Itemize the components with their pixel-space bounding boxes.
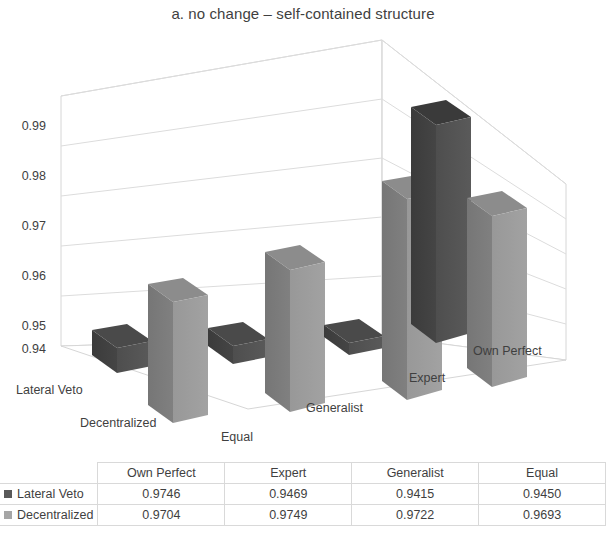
series-axis-label-lateral-veto: Lateral Veto [16,383,83,397]
bar-lateral-veto-own-perfect [411,100,471,343]
chart-title: a. no change – self-contained structure [0,5,606,22]
table-row: Lateral Veto 0.9746 0.9469 0.9415 0.9450 [0,484,606,505]
cell-lateral-veto-expert: 0.9469 [225,484,352,505]
category-label-equal: Equal [221,430,253,444]
table-corner-cell [0,463,98,484]
cell-decentralized-expert: 0.9749 [225,505,352,526]
table-col-header-generalist: Generalist [352,463,479,484]
cell-decentralized-equal: 0.9693 [479,505,606,526]
series-axis-label-decentralized: Decentralized [80,416,156,430]
table-row: Decentralized 0.9704 0.9749 0.9722 0.969… [0,505,606,526]
data-table: Own Perfect Expert Generalist Equal Late… [0,462,606,526]
y-tick-2: 0.97 [6,219,46,233]
y-tick-3: 0.96 [6,269,46,283]
category-label-expert: Expert [409,371,445,385]
category-label-own-perfect: Own Perfect [473,344,542,358]
legend-item-decentralized: Decentralized [0,505,98,526]
legend-label-decentralized: Decentralized [17,508,93,522]
category-label-generalist: Generalist [306,401,363,415]
cell-decentralized-own-perfect: 0.9704 [98,505,225,526]
cell-decentralized-generalist: 0.9722 [352,505,479,526]
legend-label-lateral-veto: Lateral Veto [17,487,84,501]
y-tick-4: 0.95 [6,319,46,333]
legend-item-lateral-veto: Lateral Veto [0,484,98,505]
legend-swatch-decentralized [4,511,12,519]
table-col-header-own-perfect: Own Perfect [98,463,225,484]
y-tick-0: 0.99 [6,119,46,133]
y-tick-5: 0.94 [6,342,46,356]
chart-container: a. no change – self-contained structure [0,0,606,559]
bar-decentralized-equal [148,278,208,423]
table-header-row: Own Perfect Expert Generalist Equal [0,463,606,484]
plot-area [0,28,606,458]
y-tick-1: 0.98 [6,169,46,183]
cell-lateral-veto-own-perfect: 0.9746 [98,484,225,505]
cell-lateral-veto-equal: 0.9450 [479,484,606,505]
cell-lateral-veto-generalist: 0.9415 [352,484,479,505]
table-col-header-expert: Expert [225,463,352,484]
legend-swatch-lateral-veto [4,490,12,498]
bar-decentralized-generalist [265,245,325,412]
table-col-header-equal: Equal [479,463,606,484]
